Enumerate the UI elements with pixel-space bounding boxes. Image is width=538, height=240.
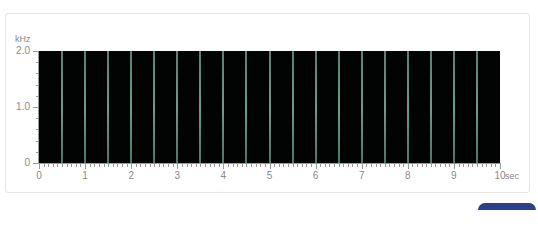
x-minor-tick: [168, 163, 169, 167]
y-axis-unit: kHz: [15, 34, 31, 44]
pulse-line: [269, 51, 271, 163]
x-major-tick: [270, 163, 271, 169]
x-minor-tick: [339, 163, 340, 167]
x-minor-tick: [117, 163, 118, 167]
x-minor-tick: [246, 163, 247, 167]
x-minor-tick: [265, 163, 266, 167]
x-minor-tick: [256, 163, 257, 167]
pulse-line: [430, 51, 432, 163]
x-minor-tick: [491, 163, 492, 167]
pulse-line: [222, 51, 224, 163]
x-minor-tick: [48, 163, 49, 167]
x-minor-tick: [173, 163, 174, 167]
x-minor-tick: [334, 163, 335, 167]
x-minor-tick: [486, 163, 487, 167]
x-minor-tick: [325, 163, 326, 167]
x-minor-tick: [357, 163, 358, 167]
x-minor-tick: [445, 163, 446, 167]
x-minor-tick: [417, 163, 418, 167]
pulse-line: [338, 51, 340, 163]
x-minor-tick: [440, 163, 441, 167]
x-minor-tick: [366, 163, 367, 167]
x-minor-tick: [348, 163, 349, 167]
pulse-line: [315, 51, 317, 163]
x-minor-tick: [412, 163, 413, 167]
x-minor-tick: [279, 163, 280, 167]
y-axis-line: [38, 51, 39, 164]
x-minor-tick: [477, 163, 478, 167]
x-minor-tick: [495, 163, 496, 167]
x-minor-tick: [482, 163, 483, 167]
x-minor-tick: [385, 163, 386, 167]
x-minor-tick: [182, 163, 183, 167]
x-minor-tick: [145, 163, 146, 167]
x-minor-tick: [159, 163, 160, 167]
x-minor-tick: [214, 163, 215, 167]
x-minor-tick: [67, 163, 68, 167]
x-minor-tick: [389, 163, 390, 167]
pulse-line: [153, 51, 155, 163]
pulse-line: [384, 51, 386, 163]
x-minor-tick: [154, 163, 155, 167]
x-minor-tick: [399, 163, 400, 167]
x-minor-tick: [371, 163, 372, 167]
x-minor-tick: [228, 163, 229, 167]
x-minor-tick: [127, 163, 128, 167]
x-minor-tick: [233, 163, 234, 167]
x-minor-tick: [403, 163, 404, 167]
x-minor-tick: [80, 163, 81, 167]
x-minor-tick: [463, 163, 464, 167]
x-minor-tick: [200, 163, 201, 167]
x-minor-tick: [108, 163, 109, 167]
x-minor-tick: [136, 163, 137, 167]
x-tick-label: 7: [352, 170, 372, 181]
x-minor-tick: [297, 163, 298, 167]
x-minor-tick: [311, 163, 312, 167]
x-major-tick: [39, 163, 40, 169]
x-major-tick: [177, 163, 178, 169]
y-tick-label: 1.0: [6, 101, 30, 112]
x-minor-tick: [468, 163, 469, 167]
x-minor-tick: [449, 163, 450, 167]
spectrogram-plot: [39, 51, 500, 163]
x-minor-tick: [104, 163, 105, 167]
pulse-line: [361, 51, 363, 163]
x-minor-tick: [352, 163, 353, 167]
x-minor-tick: [191, 163, 192, 167]
pulse-line: [107, 51, 109, 163]
x-tick-label: 1: [75, 170, 95, 181]
x-minor-tick: [320, 163, 321, 167]
x-minor-tick: [435, 163, 436, 167]
y-tick-label: 0: [6, 157, 30, 168]
x-minor-tick: [329, 163, 330, 167]
x-minor-tick: [210, 163, 211, 167]
x-minor-tick: [71, 163, 72, 167]
x-axis-unit: sec: [505, 171, 519, 181]
x-minor-tick: [219, 163, 220, 167]
x-minor-tick: [302, 163, 303, 167]
x-minor-tick: [376, 163, 377, 167]
x-tick-label: 0: [29, 170, 49, 181]
pulse-line: [453, 51, 455, 163]
pulse-line: [130, 51, 132, 163]
pulse-line: [245, 51, 247, 163]
x-minor-tick: [431, 163, 432, 167]
x-minor-tick: [113, 163, 114, 167]
x-minor-tick: [57, 163, 58, 167]
x-major-tick: [85, 163, 86, 169]
x-minor-tick: [306, 163, 307, 167]
badge[interactable]: [478, 203, 536, 210]
x-minor-tick: [205, 163, 206, 167]
pulse-line: [407, 51, 409, 163]
x-minor-tick: [62, 163, 63, 167]
x-minor-tick: [237, 163, 238, 167]
x-minor-tick: [459, 163, 460, 167]
x-minor-tick: [260, 163, 261, 167]
x-minor-tick: [251, 163, 252, 167]
x-minor-tick: [293, 163, 294, 167]
x-minor-tick: [150, 163, 151, 167]
x-minor-tick: [76, 163, 77, 167]
x-minor-tick: [343, 163, 344, 167]
x-minor-tick: [196, 163, 197, 167]
pulse-line: [84, 51, 86, 163]
